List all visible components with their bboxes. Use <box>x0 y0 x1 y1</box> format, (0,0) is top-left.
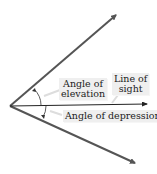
elevation-arc-arrow-icon <box>32 88 36 92</box>
depression-pointer <box>50 111 62 115</box>
depression-arc-arrow-icon <box>41 115 45 119</box>
elevation-pointer <box>44 90 60 96</box>
line-of-sight <box>10 104 147 106</box>
elevation-label-line2: elevation <box>61 89 105 99</box>
angle-of-depression-label: Angle of depression <box>63 110 157 122</box>
angle-of-elevation-label: Angle of elevation <box>59 78 107 100</box>
depression-label-text: Angle of depression <box>65 110 157 121</box>
sight-label-line2: sight <box>114 84 147 94</box>
sight-pointer <box>112 95 118 103</box>
line-of-sight-label: Line of sight <box>112 73 149 95</box>
